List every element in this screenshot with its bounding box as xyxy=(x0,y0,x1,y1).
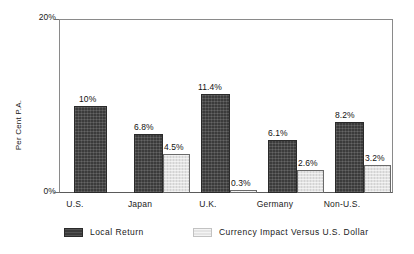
bar-label-non-us-local-return: 8.2% xyxy=(335,110,355,120)
x-axis-label-non-us: Non-U.S. xyxy=(312,199,372,209)
x-axis-label-uk: U.K. xyxy=(178,199,238,209)
y-axis-tick-0: 0% xyxy=(26,186,56,196)
bar-group-us: 10% xyxy=(59,19,125,193)
bar-label-us-local-return: 10% xyxy=(79,94,96,104)
bar-non-us-currency-impact xyxy=(364,165,391,193)
x-axis-label-germany: Germany xyxy=(245,199,305,209)
legend-label-currency-impact: Currency Impact Versus U.S. Dollar xyxy=(219,227,368,237)
legend-item-local-return: Local Return xyxy=(64,224,144,240)
legend-swatch-local-return-icon xyxy=(64,228,83,237)
bar-group-non-us: 8.2% 3.2% xyxy=(327,19,393,193)
bar-chart: Per Cent P.A. 20% 0% 10% 6.8% 4.5% 11.4%… xyxy=(0,0,414,254)
x-axis-label-japan: Japan xyxy=(110,199,170,209)
bars-layer: 10% 6.8% 4.5% 11.4% 0.3% 6.1% 2.6% 8.2% xyxy=(59,19,393,193)
bar-label-japan-local-return: 6.8% xyxy=(134,122,154,132)
bar-japan-currency-impact xyxy=(163,154,190,193)
bar-non-us-local-return xyxy=(335,122,364,193)
bar-germany-local-return xyxy=(268,140,297,193)
legend-label-local-return: Local Return xyxy=(90,227,144,237)
bar-group-japan: 6.8% 4.5% xyxy=(126,19,192,193)
bar-uk-currency-impact xyxy=(230,190,257,193)
bar-label-germany-local-return: 6.1% xyxy=(268,128,288,138)
bar-us-local-return xyxy=(74,106,107,193)
x-axis-label-us: U.S. xyxy=(45,199,105,209)
bar-label-non-us-currency-impact: 3.2% xyxy=(365,153,385,163)
legend-item-currency-impact: Currency Impact Versus U.S. Dollar xyxy=(193,224,368,240)
bar-label-uk-currency-impact: 0.3% xyxy=(231,178,251,188)
bar-label-uk-local-return: 11.4% xyxy=(198,82,222,92)
bar-germany-currency-impact xyxy=(297,170,324,193)
bar-label-germany-currency-impact: 2.6% xyxy=(298,158,318,168)
y-axis-title: Per Cent P.A. xyxy=(14,80,23,170)
bar-label-japan-currency-impact: 4.5% xyxy=(164,142,184,152)
bar-japan-local-return xyxy=(134,134,163,193)
y-axis-tick-20: 20% xyxy=(26,12,56,22)
bar-group-germany: 6.1% 2.6% xyxy=(260,19,326,193)
legend-swatch-currency-impact-icon xyxy=(193,228,212,237)
chart-legend: Local Return Currency Impact Versus U.S.… xyxy=(0,224,414,240)
bar-uk-local-return xyxy=(201,94,230,193)
bar-group-uk: 11.4% 0.3% xyxy=(193,19,259,193)
